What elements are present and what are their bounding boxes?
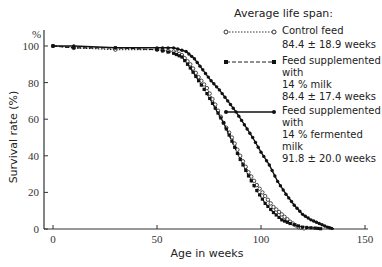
y-tick-label: 100 (23, 40, 40, 52)
data-point (215, 85, 218, 88)
data-point (266, 205, 269, 208)
legend: Average life span: Control feed 84.4 ± 1… (222, 8, 382, 167)
y-unit-label: % (32, 28, 41, 40)
data-point (316, 227, 319, 230)
data-point (304, 214, 307, 217)
data-point (176, 47, 179, 50)
solid-line-filled-circle-icon (222, 108, 278, 116)
y-tick-label: 0 (34, 223, 40, 235)
data-point (306, 216, 309, 219)
data-point (187, 52, 190, 55)
data-point (200, 83, 203, 86)
data-point (255, 189, 258, 192)
legend-label: Feed supplemented with (282, 55, 382, 79)
legend-label: Feed supplemented with (282, 105, 382, 129)
data-point (244, 169, 247, 172)
data-point (250, 179, 253, 182)
data-point (184, 50, 187, 53)
data-point (191, 71, 194, 74)
data-point (263, 194, 266, 197)
data-point (180, 55, 183, 58)
data-point (161, 49, 164, 52)
data-point (275, 213, 278, 216)
data-point (51, 44, 54, 47)
legend-item-fermented-milk: Feed supplemented with 14 % fermented mi… (222, 105, 382, 165)
data-point (212, 82, 215, 85)
y-tick-label: 40 (28, 150, 40, 162)
data-point (309, 226, 312, 229)
data-point (183, 59, 186, 62)
data-point (247, 174, 250, 177)
data-point (270, 169, 273, 172)
data-point (204, 72, 207, 75)
legend-item-milk: Feed supplemented with 14 % milk 84.4 ± … (222, 55, 382, 103)
legend-title: Average life span: (234, 8, 382, 20)
data-point (287, 196, 290, 199)
data-point (269, 202, 272, 205)
data-point (72, 44, 75, 47)
data-point (289, 222, 292, 225)
data-point (166, 51, 169, 54)
data-point (194, 75, 197, 78)
data-point (330, 227, 333, 230)
legend-value-milk: 84.4 ± 17.4 weeks (282, 91, 382, 103)
data-point (180, 49, 183, 52)
data-point (189, 66, 192, 69)
x-axis-title: Age in weeks (171, 247, 244, 260)
x-tick-label: 0 (50, 233, 56, 245)
data-point (155, 46, 158, 49)
data-point (175, 53, 178, 56)
data-point (277, 216, 280, 219)
data-point (172, 46, 175, 49)
data-point (205, 92, 208, 95)
data-point (190, 55, 193, 58)
data-point (272, 211, 275, 214)
data-point (166, 46, 169, 49)
data-point (293, 204, 296, 207)
data-point (281, 188, 284, 191)
data-point (214, 107, 217, 110)
data-point (298, 210, 301, 213)
data-point (261, 198, 264, 201)
data-point (264, 202, 267, 205)
dotted-line-open-circle-icon (222, 28, 278, 36)
data-point (211, 102, 214, 105)
data-point (279, 184, 282, 187)
data-point (198, 64, 201, 67)
data-point (305, 226, 308, 229)
data-point (313, 226, 316, 229)
data-point (197, 79, 200, 82)
data-point (319, 227, 322, 230)
dashed-line-filled-square-icon (222, 58, 278, 66)
legend-value-control: 84.4 ± 18.9 weeks (222, 39, 382, 51)
data-point (114, 46, 117, 49)
x-tick-label: 50 (152, 233, 164, 245)
data-point (295, 207, 298, 210)
data-point (178, 54, 181, 57)
y-tick-label: 60 (28, 113, 40, 125)
data-point (284, 193, 287, 196)
data-point (252, 184, 255, 187)
data-point (193, 57, 196, 60)
data-point (203, 88, 206, 91)
data-point (208, 97, 211, 100)
data-point (297, 224, 300, 227)
data-point (161, 46, 164, 49)
data-point (209, 79, 212, 82)
data-point (276, 180, 279, 183)
data-point (218, 88, 221, 91)
data-point (201, 68, 204, 71)
y-tick-label: 80 (28, 77, 40, 89)
data-point (196, 61, 199, 64)
y-axis-title: Survival rate (%) (7, 91, 20, 184)
data-point (186, 63, 189, 66)
x-tick-label: 100 (253, 233, 270, 245)
data-point (216, 112, 219, 115)
data-point (293, 223, 296, 226)
data-point (301, 226, 304, 229)
data-point (286, 221, 289, 224)
legend-label: Control feed (282, 25, 382, 37)
data-point (280, 218, 283, 221)
legend-value-fermented-milk: 91.8 ± 20.0 weeks (282, 153, 382, 165)
data-point (301, 213, 304, 216)
